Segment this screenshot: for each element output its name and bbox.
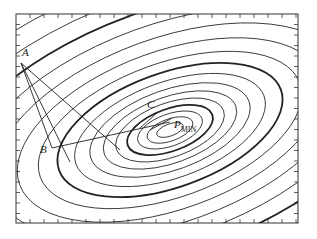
label-b: B — [40, 143, 47, 155]
search-path-segment — [21, 63, 52, 148]
point-labels: A B C PMIN — [21, 46, 197, 155]
label-p-min: PMIN — [173, 118, 197, 134]
contour-line — [107, 85, 233, 175]
contour-lines — [0, 0, 317, 239]
contour-diagram: A B C PMIN — [0, 0, 317, 239]
contour-line — [77, 64, 262, 197]
contour-line — [60, 51, 281, 210]
search-path-segment — [52, 122, 170, 148]
label-a: A — [21, 46, 29, 58]
contour-line — [17, 20, 317, 239]
label-min-subscript: MIN — [181, 125, 197, 134]
search-path-segment — [21, 63, 120, 150]
label-c: C — [147, 98, 155, 110]
contour-line — [40, 36, 301, 224]
